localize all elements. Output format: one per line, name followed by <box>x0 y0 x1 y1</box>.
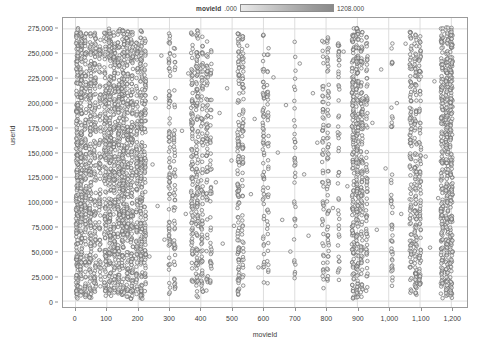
x-tick-label: 500 <box>226 315 238 322</box>
x-tick-mark <box>169 308 170 311</box>
y-tick-mark <box>55 77 58 78</box>
y-tick-mark <box>55 252 58 253</box>
x-tick-mark <box>421 308 422 311</box>
y-tick-label: 200,000 <box>28 99 53 106</box>
y-axis-title: userId <box>9 126 16 145</box>
y-tick-mark <box>55 102 58 103</box>
x-tick-label: 800 <box>321 315 333 322</box>
x-tick-mark <box>358 308 359 311</box>
y-tick-mark <box>55 202 58 203</box>
y-tick-mark <box>55 127 58 128</box>
y-tick-mark <box>55 177 58 178</box>
x-tick-mark <box>138 308 139 311</box>
y-tick-mark <box>55 302 58 303</box>
colorbar-max-label: 1208.000 <box>337 5 364 12</box>
y-tick-label: 125,000 <box>28 174 53 181</box>
colorbar-title: movieId <box>196 5 221 12</box>
x-tick-mark <box>106 308 107 311</box>
x-tick-mark <box>232 308 233 311</box>
x-tick-label: 900 <box>352 315 364 322</box>
x-tick-label: 700 <box>289 315 301 322</box>
y-tick-label: 50,000 <box>32 249 53 256</box>
x-tick-label: 1,000 <box>381 315 399 322</box>
x-tick-mark <box>452 308 453 311</box>
y-tick-label: 275,000 <box>28 24 53 31</box>
y-tick-mark <box>55 277 58 278</box>
plot-area <box>62 17 468 308</box>
y-tick-label: 175,000 <box>28 124 53 131</box>
colorbar-legend: movieId .000 1208.000 <box>196 2 364 14</box>
y-tick-mark <box>55 227 58 228</box>
x-tick-mark <box>326 308 327 311</box>
y-tick-label: 100,000 <box>28 199 53 206</box>
y-axis: 025,00050,00075,000100,000125,000150,000… <box>0 17 58 308</box>
y-tick-mark <box>55 52 58 53</box>
data-points-layer <box>63 18 467 307</box>
y-tick-label: 25,000 <box>32 274 53 281</box>
x-tick-mark <box>200 308 201 311</box>
x-tick-label: 1,100 <box>412 315 430 322</box>
x-tick-mark <box>389 308 390 311</box>
x-axis: 01002003004005006007008009001,0001,1001,… <box>62 308 468 330</box>
y-tick-label: 225,000 <box>28 74 53 81</box>
x-tick-mark <box>263 308 264 311</box>
y-tick-label: 75,000 <box>32 224 53 231</box>
y-tick-mark <box>55 152 58 153</box>
y-tick-label: 250,000 <box>28 49 53 56</box>
x-tick-label: 100 <box>100 315 112 322</box>
x-tick-mark <box>75 308 76 311</box>
x-axis-title: movieId <box>62 331 468 338</box>
x-tick-label: 200 <box>132 315 144 322</box>
colorbar-gradient-bar <box>240 4 334 12</box>
x-tick-label: 400 <box>195 315 207 322</box>
y-tick-label: 0 <box>49 299 53 306</box>
y-tick-mark <box>55 27 58 28</box>
x-tick-label: 300 <box>163 315 175 322</box>
x-tick-label: 600 <box>258 315 270 322</box>
x-tick-mark <box>295 308 296 311</box>
colorbar-min-label: .000 <box>224 5 237 12</box>
x-tick-label: 1,200 <box>443 315 461 322</box>
x-tick-label: 0 <box>73 315 77 322</box>
scatter-plot-figure: movieId .000 1208.000 025,00050,00075,00… <box>0 0 490 353</box>
y-tick-label: 150,000 <box>28 149 53 156</box>
